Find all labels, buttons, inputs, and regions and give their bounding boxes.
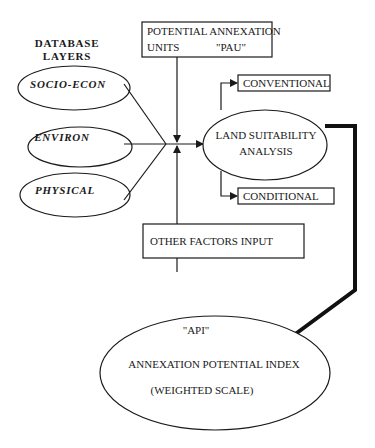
layer-label: PHYSICAL	[35, 184, 95, 196]
api-ellipse: "API" ANNEXATION POTENTIAL INDEX (WEIGHT…	[100, 316, 330, 430]
conditional-label: CONDITIONAL	[243, 190, 319, 202]
connector-socio-econ	[124, 84, 166, 144]
analysis-line1: LAND SUITABILITY	[216, 129, 317, 141]
api-line2: ANNEXATION POTENTIAL INDEX	[128, 358, 299, 370]
other-factors-box: OTHER FACTORS INPUT	[143, 224, 304, 258]
layer-physical: PHYSICAL	[20, 173, 130, 217]
pau-box: POTENTIAL ANNEXATION UNITS "PAU"	[142, 22, 281, 57]
database-layers-title-line1: DATABASE	[35, 37, 100, 49]
pau-line2-abbrev: "PAU"	[216, 41, 246, 53]
layer-environ: ENVIRON	[28, 127, 132, 167]
annexation-flow-diagram: DATABASE LAYERS SOCIO-ECON ENVIRON PHYSI…	[0, 0, 375, 448]
conventional-box: CONVENTIONAL	[238, 75, 330, 91]
api-line3: (WEIGHTED SCALE)	[151, 384, 254, 397]
conditional-box: CONDITIONAL	[238, 188, 334, 204]
other-factors-label: OTHER FACTORS INPUT	[150, 235, 273, 247]
pau-line1: POTENTIAL ANNEXATION	[147, 25, 281, 37]
layer-socio-econ: SOCIO-ECON	[18, 66, 130, 110]
land-suitability-analysis: LAND SUITABILITY ANALYSIS	[203, 110, 327, 180]
analysis-line2: ANALYSIS	[239, 145, 292, 157]
database-layers-title-line2: LAYERS	[43, 50, 91, 62]
pau-line2-units: UNITS	[147, 41, 179, 53]
layer-label: SOCIO-ECON	[30, 78, 106, 90]
analysis-to-conventional-arrow	[221, 83, 237, 110]
layer-label: ENVIRON	[33, 131, 90, 143]
conventional-label: CONVENTIONAL	[243, 77, 330, 89]
api-line1: "API"	[183, 324, 210, 336]
